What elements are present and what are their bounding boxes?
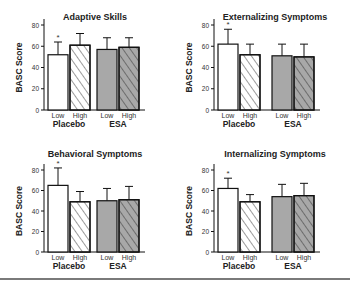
y-tick-label: 80 <box>202 22 210 29</box>
bar <box>48 185 68 252</box>
chart-title: Adaptive Skills <box>63 12 127 22</box>
y-tick-label: 80 <box>32 22 40 29</box>
y-tick-label: 60 <box>32 187 40 194</box>
chart-title: Behavioral Symptoms <box>48 149 143 159</box>
group-label: ESA <box>109 119 126 129</box>
chart-title: Internalizing Symptoms <box>224 149 326 159</box>
x-category-label: Low <box>101 112 115 119</box>
x-category-label: Low <box>52 254 66 261</box>
y-tick-label: 20 <box>202 85 210 92</box>
group-label: Placebo <box>223 261 256 270</box>
y-axis-label: BASC Score <box>14 186 24 236</box>
group-label: ESA <box>284 119 301 129</box>
bar <box>272 56 292 110</box>
y-tick-label: 40 <box>202 64 210 71</box>
group-label: ESA <box>109 261 126 270</box>
y-axis-label: BASC Score <box>14 42 24 92</box>
group-label: Placebo <box>53 119 86 129</box>
bar <box>218 44 238 110</box>
y-tick-label: 0 <box>205 107 209 114</box>
significance-marker: * <box>226 20 229 29</box>
y-tick-label: 0 <box>35 107 39 114</box>
y-tick-label: 80 <box>32 167 40 174</box>
group-label: ESA <box>284 261 301 270</box>
y-tick-label: 80 <box>202 167 210 174</box>
bar <box>48 55 68 110</box>
y-tick-label: 40 <box>202 208 210 215</box>
x-category-label: Low <box>222 112 236 119</box>
y-tick-label: 0 <box>205 249 209 256</box>
y-tick-label: 40 <box>32 64 40 71</box>
chart-title: Externalizing Symptoms <box>223 12 328 22</box>
y-axis-label: BASC Score <box>184 42 194 92</box>
group-label: Placebo <box>53 261 86 270</box>
bar <box>218 188 238 252</box>
x-category-label: Low <box>52 112 66 119</box>
y-tick-label: 60 <box>32 43 40 50</box>
x-category-label: Low <box>222 254 236 261</box>
chart-behavioral-symptoms: Behavioral Symptoms020406080BASC Score*L… <box>0 135 175 270</box>
bar <box>272 197 292 252</box>
significance-marker: * <box>56 33 59 42</box>
y-tick-label: 20 <box>202 228 210 235</box>
y-tick-label: 60 <box>202 187 210 194</box>
bottom-divider <box>0 278 350 280</box>
x-category-label: Low <box>276 254 290 261</box>
y-tick-label: 20 <box>32 85 40 92</box>
x-category-label: Low <box>101 254 115 261</box>
y-tick-label: 20 <box>32 228 40 235</box>
y-tick-label: 40 <box>32 208 40 215</box>
bar <box>97 201 117 252</box>
significance-marker: * <box>226 169 229 178</box>
significance-marker: * <box>56 159 59 168</box>
y-tick-label: 60 <box>202 43 210 50</box>
y-axis-label: BASC Score <box>184 186 194 236</box>
bar <box>97 49 117 110</box>
y-tick-label: 0 <box>35 249 39 256</box>
chart-internalizing-symptoms: Internalizing Symptoms020406080BASC Scor… <box>175 135 350 270</box>
chart-adaptive-skills: Adaptive Skills020406080BASC Score*LowHi… <box>0 0 175 135</box>
x-category-label: Low <box>276 112 290 119</box>
chart-externalizing-symptoms: Externalizing Symptoms020406080BASC Scor… <box>175 0 350 135</box>
group-label: Placebo <box>223 119 256 129</box>
